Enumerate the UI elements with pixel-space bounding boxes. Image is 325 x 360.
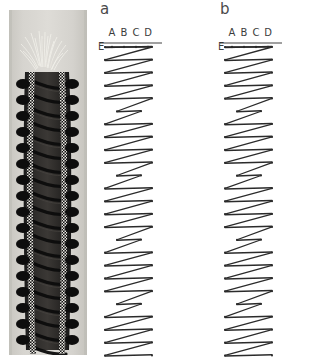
braided-cord-image xyxy=(9,10,87,355)
diagram-panel-b: b A B C D E xyxy=(216,0,325,360)
panel-b-thread-path xyxy=(216,0,325,360)
panel-a-thread-path xyxy=(96,0,206,360)
braided-cord-photograph xyxy=(9,10,87,355)
figure-root: a A B C D E b A B C D E xyxy=(0,0,325,360)
diagram-panel-a: a A B C D E xyxy=(96,0,206,360)
